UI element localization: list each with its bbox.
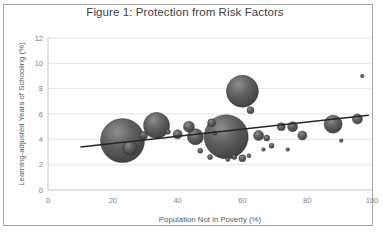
svg-text:100: 100 — [366, 196, 379, 205]
y-axis-title: Learning-adjusted Years of Schooling (%) — [17, 42, 26, 186]
y-axis-tick-labels: 024681012 — [35, 34, 43, 195]
x-axis-tick-labels: 020406080100 — [46, 196, 378, 205]
svg-text:60: 60 — [238, 196, 246, 205]
x-axis-title: Population Not in Poverty (%) — [159, 215, 262, 224]
svg-text:0: 0 — [39, 186, 43, 195]
data-bubbles — [101, 74, 365, 162]
svg-text:2: 2 — [39, 160, 43, 169]
svg-text:20: 20 — [109, 196, 117, 205]
svg-text:4: 4 — [39, 135, 43, 144]
svg-text:6: 6 — [39, 110, 43, 119]
svg-text:10: 10 — [35, 59, 43, 68]
svg-text:12: 12 — [35, 34, 43, 43]
svg-text:40: 40 — [173, 196, 181, 205]
bubble-chart: 024681012 020406080100 Population Not in… — [0, 0, 383, 237]
svg-text:8: 8 — [39, 84, 43, 93]
svg-text:0: 0 — [46, 196, 50, 205]
svg-text:80: 80 — [303, 196, 311, 205]
